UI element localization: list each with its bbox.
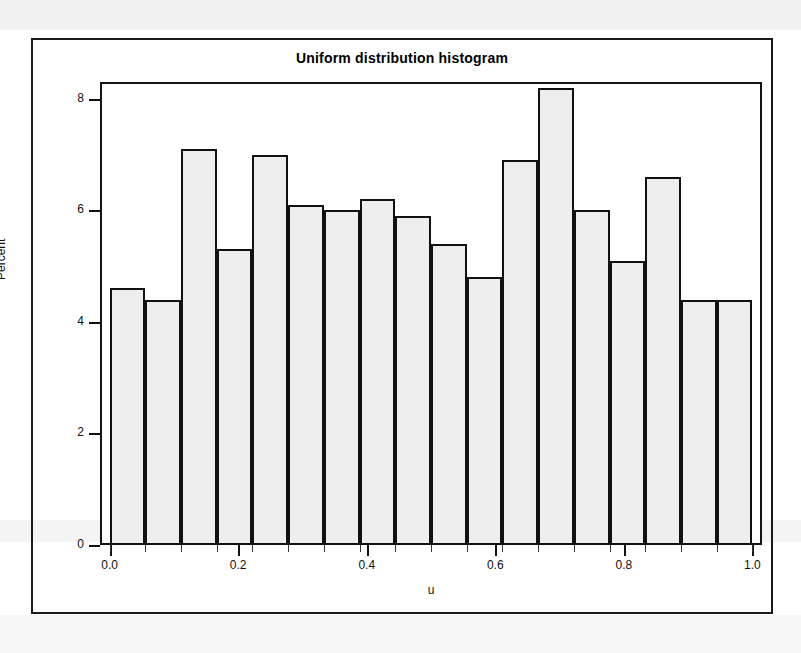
y-axis-tick: [89, 210, 100, 212]
x-axis-minor-tick: [502, 545, 503, 552]
histogram-bar: [181, 149, 217, 545]
x-axis-tick: [495, 545, 497, 556]
histogram-bar: [431, 244, 467, 545]
y-axis-tick: [89, 545, 100, 547]
x-axis-minor-tick: [431, 545, 432, 552]
histogram-bar: [681, 300, 717, 545]
x-axis-tick: [624, 545, 626, 556]
histogram-bar: [395, 216, 431, 545]
x-axis-minor-tick: [467, 545, 468, 552]
histogram-bar: [252, 155, 288, 545]
scan-band-bottom: [0, 615, 801, 653]
x-axis-tick-label: 0.6: [470, 558, 520, 572]
y-axis-title: Percent: [0, 239, 8, 280]
x-axis-minor-tick: [681, 545, 682, 552]
x-axis-minor-tick: [217, 545, 218, 552]
x-axis-tick: [367, 545, 369, 556]
x-axis-tick-label: 0.2: [213, 558, 263, 572]
x-axis-minor-tick: [360, 545, 361, 552]
y-axis-tick-label: 8: [50, 91, 84, 105]
scan-band-top: [0, 0, 801, 30]
x-axis-tick-label: 1.0: [727, 558, 777, 572]
y-axis-tick-label: 2: [50, 425, 84, 439]
x-axis-tick-label: 0.0: [85, 558, 135, 572]
x-axis-minor-tick: [324, 545, 325, 552]
y-axis-tick-label: 0: [50, 537, 84, 551]
x-axis-tick: [238, 545, 240, 556]
histogram-bars: [100, 82, 762, 545]
y-axis-tick-label: 6: [50, 202, 84, 216]
x-axis-minor-tick: [288, 545, 289, 552]
chart-title: Uniform distribution histogram: [31, 50, 773, 66]
histogram-bar: [360, 199, 396, 545]
x-axis-minor-tick: [645, 545, 646, 552]
histogram-bar: [574, 210, 610, 545]
histogram-bar: [145, 300, 181, 545]
histogram-bar: [502, 160, 538, 545]
x-axis-minor-tick: [538, 545, 539, 552]
x-axis-minor-tick: [610, 545, 611, 552]
histogram-bar: [645, 177, 681, 545]
x-axis-minor-tick: [252, 545, 253, 552]
x-axis-minor-tick: [110, 545, 111, 552]
histogram-bar: [324, 210, 360, 545]
y-axis-tick: [89, 322, 100, 324]
histogram-bar: [717, 300, 753, 545]
y-axis-tick: [89, 433, 100, 435]
y-axis-tick: [89, 99, 100, 101]
x-axis-minor-tick: [717, 545, 718, 552]
histogram-bar: [217, 249, 253, 545]
histogram-bar: [610, 261, 646, 545]
histogram-bar: [467, 277, 503, 545]
x-axis-minor-tick: [181, 545, 182, 552]
x-axis-minor-tick: [574, 545, 575, 552]
histogram-bar: [110, 288, 146, 545]
x-axis-title: u: [100, 583, 762, 597]
histogram-bar: [538, 88, 574, 545]
x-axis-tick-label: 0.4: [342, 558, 392, 572]
y-axis-tick-label: 4: [50, 314, 84, 328]
histogram-bar: [288, 205, 324, 545]
x-axis-minor-tick: [752, 545, 753, 552]
x-axis-minor-tick: [145, 545, 146, 552]
x-axis-minor-tick: [395, 545, 396, 552]
x-axis-tick-label: 0.8: [599, 558, 649, 572]
